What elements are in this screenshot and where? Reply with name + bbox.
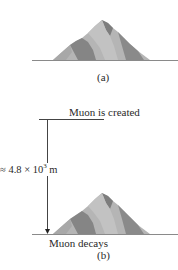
distance-label-unit: m: [47, 164, 58, 175]
mountain-b: [53, 193, 150, 234]
caption-b: (b): [97, 249, 110, 261]
distance-label: ≈ 4.8 × 103 m: [0, 164, 57, 176]
mountain-a: [53, 20, 150, 60]
distance-label-prefix: ≈ 4.8 × 10: [0, 164, 43, 175]
diagram-canvas: [0, 0, 178, 270]
caption-a: (a): [97, 71, 109, 83]
muon-decays-label: Muon decays: [49, 237, 108, 249]
muon-created-label: Muon is created: [69, 106, 140, 118]
distance-arrow-head: [45, 229, 50, 234]
